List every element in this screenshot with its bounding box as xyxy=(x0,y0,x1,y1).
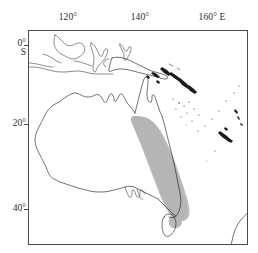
lat-tick-label-0s: 0° S xyxy=(17,39,26,57)
distribution-map-figure: 120° 140° 160° E 0° S 20° 40° xyxy=(0,0,258,253)
lon-tick-label-120: 120° xyxy=(59,12,77,22)
southern-coast-detail xyxy=(125,187,145,199)
new-zealand-coastline xyxy=(231,212,248,245)
map-canvas xyxy=(29,31,248,245)
lon-tick-label-160-e: 160° E xyxy=(199,12,226,22)
vanuatu-islands xyxy=(234,109,243,126)
coral-sea-islets xyxy=(173,86,240,162)
new-caledonia xyxy=(218,127,233,143)
east-coast-range-band xyxy=(131,116,189,228)
indonesia-coastline xyxy=(29,35,131,74)
map-plot-frame xyxy=(28,30,248,245)
lon-tick-label-140: 140° xyxy=(131,12,149,22)
lat-hemisphere-label-s: S xyxy=(17,48,26,57)
solomon-islands xyxy=(146,64,197,94)
